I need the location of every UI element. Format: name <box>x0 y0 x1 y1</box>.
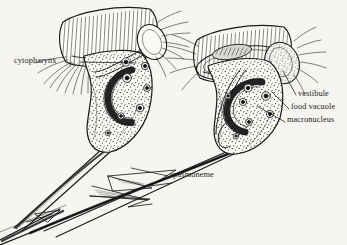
label-spasmoneme: spasmoneme <box>170 170 214 179</box>
label-vestibule: vestibule <box>298 89 329 98</box>
label-macronucleus: macronucleus <box>287 115 334 124</box>
label-cytopharynx: cytopharynx <box>14 56 57 65</box>
label-food-vacuole: food vacuole <box>291 102 335 111</box>
scientific-illustration: cytopharynx vestibule food vacuole macro… <box>0 0 347 245</box>
